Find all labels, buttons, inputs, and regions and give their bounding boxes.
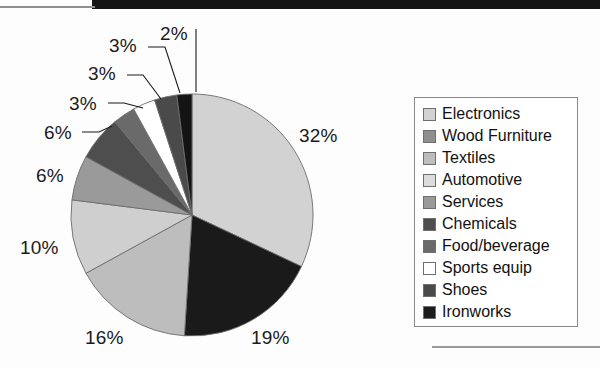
- pie-chart: 32%19%16%10%6%6%3%3%3%2%: [0, 0, 410, 368]
- legend-item-shoes[interactable]: Shoes: [423, 279, 577, 301]
- legend-item-label: Food/beverage: [442, 238, 550, 254]
- legend-swatch-icon: [423, 240, 436, 253]
- legend-item-label: Automotive: [442, 172, 522, 188]
- legend-item-textiles[interactable]: Textiles: [423, 147, 577, 169]
- legend-item-label: Sports equip: [442, 260, 532, 276]
- legend-swatch-icon: [423, 174, 436, 187]
- legend-swatch-icon: [423, 306, 436, 319]
- legend-item-wood-furniture[interactable]: Wood Furniture: [423, 125, 577, 147]
- legend-swatch-icon: [423, 152, 436, 165]
- legend-item-label: Services: [442, 194, 503, 210]
- legend-item-sports-equip[interactable]: Sports equip: [423, 257, 577, 279]
- legend-swatch-icon: [423, 262, 436, 275]
- legend-item-ironworks[interactable]: Ironworks: [423, 301, 577, 323]
- leader-line-sports-equip: [127, 75, 161, 99]
- leader-line-shoes: [148, 47, 180, 93]
- pie-percent-label: 32%: [299, 125, 338, 147]
- page-bottom-hairline: [432, 346, 600, 348]
- legend-item-label: Wood Furniture: [442, 128, 552, 144]
- legend-swatch-icon: [423, 218, 436, 231]
- pie-percent-label: 3%: [88, 63, 116, 85]
- pie-percent-label: 10%: [20, 237, 59, 259]
- legend-item-label: Textiles: [442, 150, 495, 166]
- chart-page: 32%19%16%10%6%6%3%3%3%2% ElectronicsWood…: [0, 0, 600, 368]
- legend-item-label: Electronics: [442, 106, 520, 122]
- pie-percent-label: 3%: [69, 93, 97, 115]
- legend-item-label: Chemicals: [442, 216, 517, 232]
- legend-swatch-icon: [423, 196, 436, 209]
- legend-item-label: Ironworks: [442, 304, 511, 320]
- pie-percent-label: 6%: [36, 165, 64, 187]
- legend-item-electronics[interactable]: Electronics: [423, 103, 577, 125]
- pie-slice-group: [71, 94, 313, 336]
- pie-percent-label: 3%: [109, 35, 137, 57]
- legend-swatch-icon: [423, 130, 436, 143]
- pie-percent-label: 16%: [85, 327, 124, 349]
- pie-percent-label: 6%: [44, 122, 72, 144]
- legend-item-services[interactable]: Services: [423, 191, 577, 213]
- chart-legend: ElectronicsWood FurnitureTextilesAutomot…: [414, 97, 578, 327]
- legend-item-chemicals[interactable]: Chemicals: [423, 213, 577, 235]
- legend-item-label: Shoes: [442, 282, 487, 298]
- legend-swatch-icon: [423, 284, 436, 297]
- legend-swatch-icon: [423, 108, 436, 121]
- pie-percent-label: 19%: [251, 327, 290, 349]
- pie-percent-label: 2%: [160, 23, 188, 45]
- legend-item-automotive[interactable]: Automotive: [423, 169, 577, 191]
- legend-item-food-beverage[interactable]: Food/beverage: [423, 235, 577, 257]
